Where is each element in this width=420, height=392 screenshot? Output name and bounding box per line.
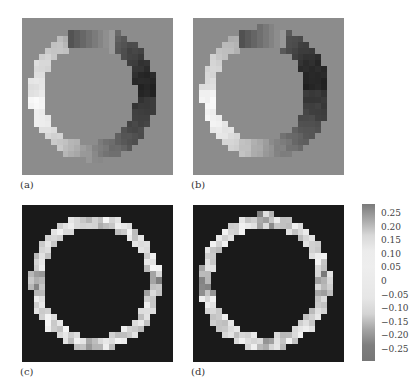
- heatmap-panel-a: [22, 18, 173, 175]
- colorbar-tick: 0: [381, 276, 387, 286]
- panel-label-b: (b): [191, 179, 205, 190]
- colorbar-tick: 0.20: [381, 222, 401, 232]
- colorbar: [362, 204, 375, 361]
- colorbar-tick: −0.05: [381, 290, 409, 300]
- colorbar-tick: 0.05: [381, 262, 401, 272]
- panel-label-a: (a): [20, 179, 34, 190]
- colorbar-tick: −0.10: [381, 303, 409, 313]
- colorbar-tick: −0.20: [381, 330, 409, 340]
- heatmap-panel-c: [22, 205, 173, 362]
- colorbar-tick: −0.25: [381, 344, 409, 354]
- colorbar-tick: 0.15: [381, 235, 401, 245]
- panel-label-c: (c): [20, 366, 33, 377]
- colorbar-tick: 0.25: [381, 208, 401, 218]
- panel-label-d: (d): [191, 366, 205, 377]
- heatmap-panel-b: [193, 18, 344, 175]
- colorbar-tick: −0.15: [381, 317, 409, 327]
- heatmap-panel-d: [193, 205, 344, 362]
- colorbar-tick: 0.10: [381, 249, 401, 259]
